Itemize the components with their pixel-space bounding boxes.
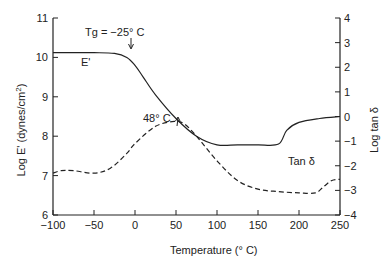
y-tick-label: 11 [37, 12, 48, 24]
tan-delta-label: Tan δ [288, 155, 315, 167]
y-axis-label-text: Log E' (dynes/cm [15, 92, 27, 177]
y-tick-label: 9 [42, 91, 48, 103]
svg-text:Log E' (dynes/cm2): Log E' (dynes/cm2) [14, 84, 27, 177]
axes: −100−5005010015020025067891011−4−3−2−101… [36, 12, 357, 231]
y2-tick-label: 4 [344, 12, 350, 24]
y2-tick-label: −4 [344, 209, 357, 221]
y2-axis-label: Log tan δ [368, 107, 380, 153]
dma-chart: −100−5005010015020025067891011−4−3−2−101… [0, 0, 387, 257]
y2-tick-label: −1 [344, 135, 357, 147]
y-tick-label: 10 [36, 51, 48, 63]
y2-tick-label: −3 [344, 184, 357, 196]
y-tick-label: 7 [42, 170, 48, 182]
y2-tick-label: 2 [344, 61, 350, 73]
curves [53, 53, 340, 194]
y-tick-label: 6 [42, 209, 48, 221]
y-tick-label: 8 [42, 130, 48, 142]
e-prime-curve [53, 53, 340, 146]
x-axis-label: Temperature (° C) [170, 244, 258, 256]
x-tick-label: 100 [208, 219, 226, 231]
annotations: Tg = −25° C E' 48° C Tan δ [81, 26, 315, 167]
x-tick-label: 150 [249, 219, 267, 231]
x-tick-label: 200 [290, 219, 308, 231]
x-tick-label: −50 [85, 219, 104, 231]
tg-label: Tg = −25° C [85, 26, 144, 38]
y2-axis-label-text: Log tan δ [368, 107, 380, 153]
y2-tick-label: 3 [344, 37, 350, 49]
y2-tick-label: −2 [344, 160, 357, 172]
y2-tick-label: 1 [344, 86, 350, 98]
e-prime-label: E' [81, 56, 90, 68]
y-axis-label-end: ) [15, 84, 27, 88]
peak-label: 48° C [143, 112, 171, 124]
y2-tick-label: 0 [344, 111, 350, 123]
x-tick-label: 50 [170, 219, 182, 231]
x-tick-label: 0 [132, 219, 138, 231]
y-axis-label: Log E' (dynes/cm2) [14, 84, 27, 177]
